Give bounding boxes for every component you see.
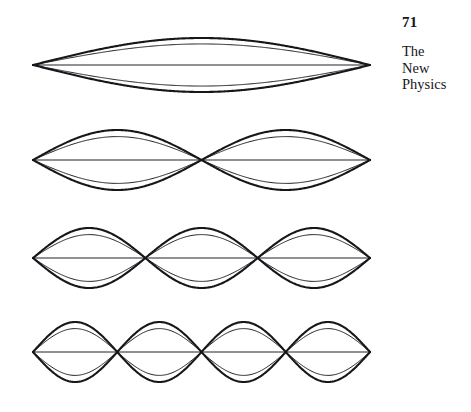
book-title-line-3: Physics [402,76,468,93]
book-page: 71 The New Physics [0,0,471,412]
mode-1-outer-envelope-upper [33,38,370,65]
mode-1-inner-curve-upper [33,44,370,65]
book-title-line-1: The [402,43,468,60]
page-number: 71 [402,14,468,31]
wave-modes-group [33,38,370,382]
book-title: The New Physics [402,43,468,93]
wave-mode-3 [33,228,370,288]
wave-mode-4 [33,322,370,382]
standing-waves-svg [0,0,390,412]
wave-mode-1 [33,38,370,92]
mode-1-inner-curve-lower [33,65,370,86]
mode-1-outer-envelope-lower [33,65,370,92]
standing-waves-figure [0,0,390,412]
book-title-line-2: New [402,60,468,77]
page-header-block: 71 The New Physics [402,14,468,93]
wave-mode-2 [33,130,370,190]
